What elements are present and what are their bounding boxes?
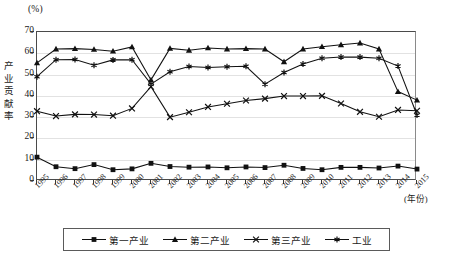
- legend-item-1[interactable]: 第一产业: [81, 233, 149, 247]
- y-tick-mark: [30, 31, 34, 32]
- x-axis-labels: 1995199619971998199920002001200220032004…: [0, 184, 450, 220]
- data-point-square: [35, 155, 40, 160]
- data-point-square: [358, 165, 363, 170]
- legend-marker-triangle: [162, 234, 188, 245]
- data-point-square: [377, 166, 382, 171]
- data-point-triangle: [34, 60, 40, 66]
- plot-area: [36, 31, 416, 180]
- legend-marker-square: [81, 234, 107, 245]
- y-tick-mark: [30, 95, 34, 96]
- data-point-asterisk: [300, 61, 305, 67]
- data-point-square: [263, 165, 268, 170]
- data-point-triangle: [357, 40, 363, 46]
- data-point-square: [187, 165, 192, 170]
- data-point-square: [244, 165, 249, 170]
- data-point-square: [73, 166, 78, 171]
- data-series-layer: [37, 32, 417, 181]
- data-point-square: [206, 165, 211, 170]
- series-x: [34, 84, 420, 120]
- y-tick-label: 60: [12, 46, 34, 56]
- data-point-square: [225, 165, 230, 170]
- y-tick-mark: [30, 159, 34, 160]
- x-axis-title: (年份): [404, 192, 428, 204]
- data-point-asterisk: [395, 63, 400, 69]
- legend-marker-x: [243, 234, 269, 245]
- y-tick-mark: [30, 52, 34, 53]
- data-point-triangle: [129, 44, 135, 50]
- data-point-square: [54, 164, 59, 169]
- data-point-square: [92, 162, 97, 167]
- legend-item-4[interactable]: 工业: [324, 233, 372, 247]
- y-tick-label: 20: [12, 131, 34, 141]
- legend-label: 工业: [352, 233, 372, 247]
- data-point-x: [129, 106, 135, 112]
- legend-marker-asterisk: [324, 234, 350, 245]
- y-tick-label: 10: [12, 153, 34, 163]
- y-tick-label: 0: [12, 174, 34, 184]
- data-point-triangle: [395, 88, 401, 94]
- data-point-square: [111, 167, 116, 172]
- series-triangle: [34, 40, 420, 103]
- series-asterisk: [34, 54, 419, 118]
- data-point-square: [301, 166, 306, 171]
- y-tick-label: 50: [12, 68, 34, 78]
- y-tick-label: 40: [12, 89, 34, 99]
- chart-legend: 第一产业第二产业第三产业工业: [63, 228, 390, 251]
- data-point-square: [415, 167, 420, 172]
- data-point-square: [396, 164, 401, 169]
- data-point-square: [92, 237, 97, 242]
- legend-label: 第二产业: [190, 233, 230, 247]
- legend-label: 第三产业: [271, 233, 311, 247]
- legend-item-3[interactable]: 第三产业: [243, 233, 311, 247]
- legend-item-2[interactable]: 第二产业: [162, 233, 230, 247]
- data-point-square: [339, 165, 344, 170]
- data-point-square: [130, 166, 135, 171]
- y-tick-label: 30: [12, 110, 34, 120]
- legend-label: 第一产业: [109, 233, 149, 247]
- data-point-square: [168, 164, 173, 169]
- data-point-triangle: [167, 45, 173, 51]
- data-point-square: [149, 161, 154, 166]
- data-point-square: [282, 163, 287, 168]
- y-tick-mark: [30, 74, 34, 75]
- y-tick-mark: [30, 180, 34, 181]
- y-tick-mark: [30, 137, 34, 138]
- series-square: [35, 155, 420, 172]
- data-point-x: [338, 101, 344, 107]
- data-point-square: [320, 167, 325, 172]
- y-tick-label: 70: [12, 25, 34, 35]
- data-point-triangle: [281, 59, 287, 65]
- data-point-asterisk: [281, 69, 286, 75]
- chart-root: (%) 产业贡献率 010203040506070 19951996199719…: [0, 0, 450, 257]
- y-tick-mark: [30, 116, 34, 117]
